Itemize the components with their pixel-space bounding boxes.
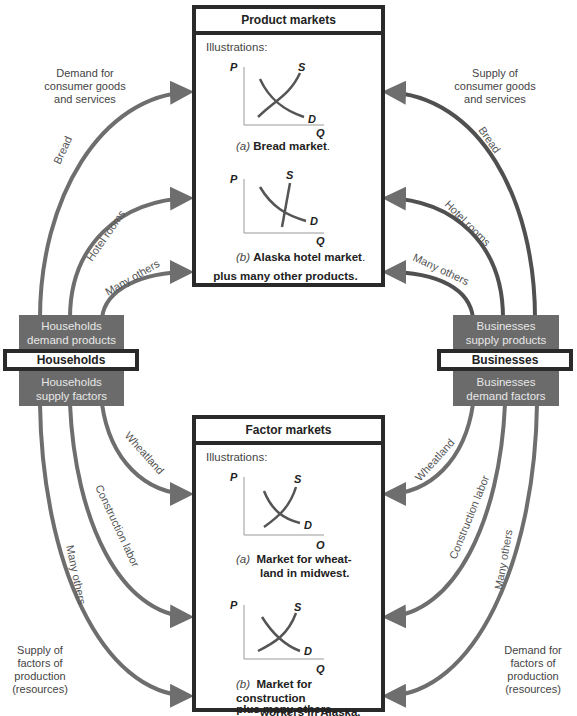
svg-text:S: S bbox=[294, 601, 302, 613]
bread-market-caption: (a) Bread market. bbox=[236, 140, 330, 152]
corner-bottom-right: Demand for factors of production (resour… bbox=[498, 644, 568, 696]
label-left-hotel: Hotel rooms bbox=[84, 207, 128, 263]
corner-bottom-left: Supply of factors of production (resourc… bbox=[10, 644, 70, 696]
alaska-hotel-chart: P S D Q bbox=[226, 171, 336, 251]
wheatland-chart: P S D Q bbox=[226, 469, 336, 549]
arrow-right-hotel bbox=[386, 198, 503, 318]
bread-market-chart: P S D Q bbox=[226, 59, 336, 139]
alaska-hotel-caption: (b) Alaska hotel market. bbox=[236, 251, 365, 263]
arrow-left-many bbox=[102, 272, 190, 318]
illustrations-label: Illustrations: bbox=[206, 41, 267, 53]
illustrations-label: Illustrations: bbox=[206, 451, 267, 463]
svg-text:S: S bbox=[298, 61, 306, 73]
households-supply-block: Households supply factors bbox=[19, 371, 124, 406]
label-left-bread: Bread bbox=[51, 134, 74, 166]
svg-text:D: D bbox=[310, 215, 318, 227]
wheatland-caption: (a) Market for wheat- land in midwest. bbox=[236, 552, 352, 580]
svg-text:Q: Q bbox=[316, 235, 325, 247]
product-markets-footer: plus many other products. bbox=[193, 270, 378, 282]
product-markets-title: Product markets bbox=[196, 9, 381, 35]
corner-top-right: Supply of consumer goods and services bbox=[440, 67, 550, 106]
factor-markets-footer: plus many others. bbox=[193, 703, 378, 715]
svg-text:P: P bbox=[230, 599, 238, 611]
svg-text:D: D bbox=[304, 645, 312, 657]
svg-text:P: P bbox=[230, 61, 238, 73]
arrow-right-wheatland bbox=[386, 404, 473, 494]
factor-markets-title: Factor markets bbox=[196, 419, 381, 445]
label-right-many-factors: Many others bbox=[492, 528, 514, 590]
svg-text:P: P bbox=[230, 471, 238, 483]
svg-text:Q: Q bbox=[316, 663, 325, 675]
corner-top-left: Demand for consumer goods and services bbox=[30, 67, 140, 106]
factor-markets-box: Factor markets Illustrations: P S D Q (a… bbox=[192, 415, 385, 712]
svg-text:Q: Q bbox=[316, 127, 325, 139]
households-label: Households bbox=[3, 349, 139, 371]
businesses-demand-block: Businesses demand factors bbox=[453, 371, 559, 406]
businesses-label: Businesses bbox=[437, 349, 573, 371]
businesses-supply-block: Businesses supply products bbox=[453, 315, 559, 349]
product-markets-box: Product markets Illustrations: P S D Q (… bbox=[192, 5, 385, 287]
construction-workers-chart: P S D Q bbox=[226, 597, 336, 677]
households-demand-block: Households demand products bbox=[19, 315, 124, 349]
svg-text:D: D bbox=[304, 519, 312, 531]
svg-text:Q: Q bbox=[316, 539, 325, 549]
svg-text:S: S bbox=[286, 171, 294, 181]
svg-text:P: P bbox=[230, 173, 238, 185]
label-left-construction: Construction labor bbox=[93, 483, 142, 569]
label-right-hotel: Hotel rooms bbox=[443, 198, 494, 249]
svg-text:S: S bbox=[294, 473, 302, 485]
svg-text:D: D bbox=[308, 113, 316, 125]
arrow-right-construction bbox=[386, 404, 505, 617]
